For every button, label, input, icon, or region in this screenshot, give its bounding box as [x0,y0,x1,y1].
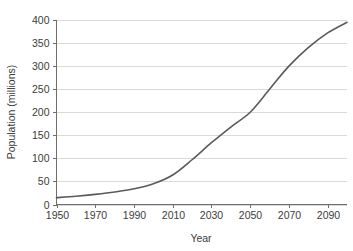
x-tick-label-2070: 2070 [278,209,302,221]
y-tick-label-250: 250 [32,83,50,95]
y-tick-label-200: 200 [32,106,50,118]
x-tick-labels-group: 19501970199020102030205020702090 [46,209,341,221]
chart-canvas: 050100150200250300350400 195019701990201… [0,0,353,251]
x-tick-label-2090: 2090 [317,209,341,221]
population-line-series [57,22,348,197]
y-tick-label-150: 150 [32,129,50,141]
y-tick-labels-group: 050100150200250300350400 [32,14,50,211]
x-tick-label-1970: 1970 [84,209,108,221]
y-tick-label-300: 300 [32,60,50,72]
x-tick-label-2050: 2050 [239,209,263,221]
population-growth-chart: 050100150200250300350400 195019701990201… [0,0,353,251]
x-tick-label-1990: 1990 [123,209,147,221]
x-tick-label-2030: 2030 [200,209,224,221]
x-axis-title: Year [190,232,212,244]
gridlines-group [57,21,348,206]
y-tick-label-350: 350 [32,37,50,49]
y-tick-label-50: 50 [38,175,50,187]
y-axis-title: Population (millions) [5,65,17,160]
y-tick-label-100: 100 [32,152,50,164]
x-tick-label-2010: 2010 [162,209,186,221]
y-tick-label-400: 400 [32,14,50,26]
x-tick-label-1950: 1950 [46,209,70,221]
